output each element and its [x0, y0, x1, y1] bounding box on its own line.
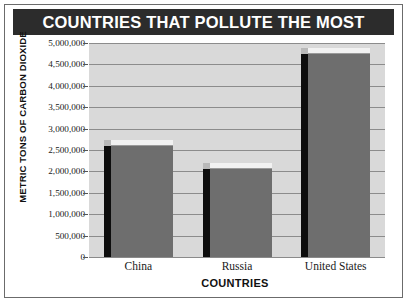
bar-china: [111, 140, 173, 257]
bar-front-face: [308, 54, 370, 257]
y-axis-tick-mark: [83, 129, 88, 130]
y-axis-tick-label: 1,500,000: [11, 189, 85, 198]
y-axis-tick-label: 3,500,000: [11, 103, 85, 112]
bar-united-states: [308, 48, 370, 257]
y-axis-tick-label: 3,000,000: [11, 125, 85, 134]
bar-top-face: [111, 140, 173, 146]
bar-russia: [210, 163, 272, 257]
y-axis-tick-mark: [83, 257, 88, 258]
y-axis-tick-label: 1,000,000: [11, 210, 85, 219]
y-axis-tick-mark: [83, 171, 88, 172]
y-axis-tick-mark: [83, 214, 88, 215]
plot-area: [89, 43, 385, 258]
x-axis-label-united-states: United States: [286, 260, 385, 272]
gridline: [89, 43, 385, 44]
y-axis-tick-label: 500,000: [11, 232, 85, 241]
y-axis-tick-label: 5,000,000: [11, 39, 85, 48]
bar-side-face: [203, 169, 210, 257]
chart-figure: COUNTRIES THAT POLLUTE THE MOST METRIC T…: [4, 4, 403, 298]
x-axis-label-russia: Russia: [188, 260, 287, 272]
y-axis-tick-mark: [83, 107, 88, 108]
x-axis-label-china: China: [89, 260, 188, 272]
bar-side-face: [301, 54, 308, 257]
y-axis-tick-label: 2,000,000: [11, 167, 85, 176]
y-axis-tick-label: 2,500,000: [11, 146, 85, 155]
bar-top-side-face: [203, 163, 210, 169]
y-axis-tick-mark: [83, 86, 88, 87]
bar-top-face: [210, 163, 272, 169]
y-axis-tick-mark: [83, 64, 88, 65]
bar-side-face: [104, 146, 111, 257]
y-axis-tick-label: 0: [11, 253, 85, 262]
y-axis-tick-label: 4,500,000: [11, 60, 85, 69]
chart-title: COUNTRIES THAT POLLUTE THE MOST: [13, 9, 394, 35]
y-axis-tick-mark: [83, 43, 88, 44]
y-axis-tick-mark: [83, 236, 88, 237]
bar-front-face: [210, 169, 272, 257]
y-axis-tick-labels: 5,000,0004,500,0004,000,0003,500,0003,00…: [5, 43, 85, 258]
y-axis-tick-mark: [83, 150, 88, 151]
bar-top-side-face: [104, 140, 111, 146]
bar-top-face: [308, 48, 370, 54]
bar-top-side-face: [301, 48, 308, 54]
bar-front-face: [111, 146, 173, 257]
x-axis-title: COUNTRIES: [85, 277, 385, 289]
y-axis-tick-label: 4,000,000: [11, 82, 85, 91]
y-axis-tick-mark: [83, 193, 88, 194]
